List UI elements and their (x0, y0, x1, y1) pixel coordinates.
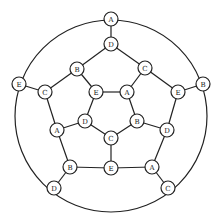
graph-node: D (47, 181, 61, 195)
node-label: C (108, 135, 113, 143)
graph-node: A (145, 160, 159, 174)
node-label: B (74, 66, 79, 74)
node-label: A (123, 89, 130, 97)
graph-node: B (70, 62, 84, 76)
node-label: E (93, 89, 98, 97)
node-label: D (164, 127, 170, 135)
node-label: C (42, 89, 47, 97)
graph-node: C (104, 131, 118, 145)
node-label: D (108, 41, 114, 49)
graph-node: C (161, 181, 175, 195)
node-label: E (108, 165, 113, 173)
graph-node: A (50, 123, 64, 137)
node-label: E (175, 89, 180, 97)
nodes: ABCDEDCEDAEBACBEABCD (12, 12, 210, 195)
node-label: A (148, 164, 155, 172)
graph-svg: ABCDEDCEDAEBACBEABCD (0, 0, 222, 215)
node-label: C (142, 65, 147, 73)
graph-node: B (196, 77, 210, 91)
graph-node: B (130, 114, 144, 128)
graph-node: E (104, 161, 118, 175)
graph-node: D (78, 114, 92, 128)
graph-node: A (104, 12, 118, 26)
graph-node: E (12, 77, 26, 91)
graph-node: A (120, 85, 134, 99)
graph-node: B (63, 160, 77, 174)
graph-node: E (171, 85, 185, 99)
node-label: A (53, 127, 60, 135)
node-label: B (67, 164, 72, 172)
graph-node: C (38, 85, 52, 99)
node-label: B (134, 118, 139, 126)
node-label: E (16, 81, 21, 89)
node-label: A (107, 16, 114, 24)
graph-node: D (104, 37, 118, 51)
node-label: D (51, 185, 57, 193)
node-label: C (165, 185, 170, 193)
node-label: D (82, 118, 88, 126)
node-label: B (200, 81, 205, 89)
graph-node: E (89, 85, 103, 99)
graph-node: C (138, 61, 152, 75)
graph-node: D (160, 123, 174, 137)
graph-diagram: ABCDEDCEDAEBACBEABCD (0, 0, 222, 215)
